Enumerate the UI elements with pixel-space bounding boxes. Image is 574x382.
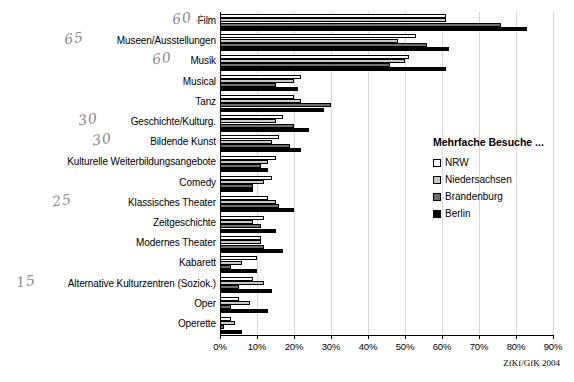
category-label: Klassisches Theater — [128, 197, 216, 208]
handwritten-note: 15 — [15, 271, 37, 290]
source-note: ZfKf/GfK 2004 — [503, 358, 560, 368]
legend-swatch-icon — [433, 176, 441, 184]
category-label: Oper — [194, 298, 216, 309]
x-axis-tick-label: 20% — [285, 341, 303, 352]
bar — [220, 108, 324, 112]
legend-label: NRW — [445, 157, 469, 168]
bar — [220, 87, 298, 91]
handwritten-note: 30 — [77, 110, 99, 129]
x-axis-tick — [257, 335, 258, 339]
bar — [220, 128, 309, 132]
x-axis-tick — [516, 335, 517, 339]
legend-label: Brandenburg — [445, 191, 503, 202]
category-label: Comedy — [179, 177, 216, 188]
bar-group: Musical — [0, 73, 574, 93]
x-axis-tick-label: 50% — [396, 341, 414, 352]
x-axis-tick-label: 0% — [213, 341, 226, 352]
bar-group: Operette — [0, 315, 574, 335]
legend: Mehrfache Besuche ... NRWNiedersachsenBr… — [433, 136, 568, 225]
bar — [220, 188, 253, 192]
category-label: Modernes Theater — [136, 237, 216, 248]
x-axis-tick-label: 10% — [248, 341, 266, 352]
legend-items: NRWNiedersachsenBrandenburgBerlin — [433, 157, 568, 219]
bar-group: Musik — [0, 52, 574, 72]
legend-label: Berlin — [445, 208, 471, 219]
bar-group: Oper — [0, 295, 574, 315]
x-axis-tick-label: 30% — [322, 341, 340, 352]
bar — [220, 27, 527, 31]
x-axis-tick — [331, 335, 332, 339]
x-axis-tick-label: 40% — [359, 341, 377, 352]
bar-group: Museen/Ausstellungen — [0, 32, 574, 52]
bar-group: Alternative Kulturzentren (Soziok.) — [0, 274, 574, 294]
x-axis-tick — [368, 335, 369, 339]
x-axis-tick-label: 80% — [507, 341, 525, 352]
category-label: Musik — [190, 55, 216, 66]
category-label: Tanz — [195, 96, 216, 107]
legend-swatch-icon — [433, 210, 441, 218]
legend-item-nrw[interactable]: NRW — [433, 157, 568, 168]
x-axis-line — [220, 335, 554, 336]
bar-group: Kabarett — [0, 254, 574, 274]
bar-group: Film — [0, 12, 574, 32]
x-axis-tick — [405, 335, 406, 339]
legend-item-niedersachsen[interactable]: Niedersachsen — [433, 174, 568, 185]
x-axis-tick — [553, 335, 554, 339]
category-label: Museen/Ausstellungen — [117, 35, 216, 46]
chart-root: 0%10%20%30%40%50%60%70%80%90% FilmMuseen… — [0, 0, 574, 382]
legend-swatch-icon — [433, 159, 441, 167]
legend-item-brandenburg[interactable]: Brandenburg — [433, 191, 568, 202]
bar — [220, 269, 257, 273]
bar-group: Tanz — [0, 93, 574, 113]
category-label: Alternative Kulturzentren (Soziok.) — [68, 278, 216, 289]
legend-swatch-icon — [433, 193, 441, 201]
bar — [220, 168, 268, 172]
legend-label: Niedersachsen — [445, 174, 512, 185]
x-axis-tick — [220, 335, 221, 339]
category-label: Bildende Kunst — [150, 136, 216, 147]
category-label: Musical — [183, 76, 216, 87]
bar — [220, 229, 276, 233]
x-axis-tick — [442, 335, 443, 339]
x-axis-tick-label: 70% — [470, 341, 488, 352]
handwritten-note: 25 — [51, 190, 73, 209]
x-axis-tick — [294, 335, 295, 339]
handwritten-note: 60 — [171, 9, 193, 28]
category-label: Kulturelle Weiterbildungsangebote — [67, 156, 216, 167]
bar-group: Modernes Theater — [0, 234, 574, 254]
bar — [220, 309, 268, 313]
x-axis-tick-label: 60% — [433, 341, 451, 352]
bar — [220, 208, 294, 212]
bar — [220, 148, 301, 152]
bar — [220, 249, 283, 253]
bar — [220, 47, 449, 51]
category-label: Kabarett — [179, 257, 216, 268]
x-axis-tick — [479, 335, 480, 339]
bar — [220, 330, 242, 334]
legend-item-berlin[interactable]: Berlin — [433, 208, 568, 219]
category-label: Geschichte/Kulturg. — [131, 116, 216, 127]
category-label: Operette — [178, 318, 216, 329]
x-axis-tick-label: 90% — [544, 341, 562, 352]
category-label: Zeitgeschichte — [153, 217, 216, 228]
bar — [220, 67, 446, 71]
bar — [220, 289, 272, 293]
legend-title: Mehrfache Besuche ... — [433, 136, 568, 148]
handwritten-note: 30 — [91, 130, 113, 149]
